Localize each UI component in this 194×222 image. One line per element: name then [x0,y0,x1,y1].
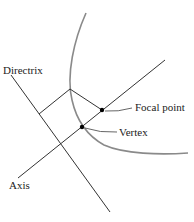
parabola-diagram: Directrix Focal point Vertex Axis [0,0,194,222]
focal-point-leader [105,108,132,111]
vertex-label: Vertex [119,127,148,138]
focal-point-dot [100,108,104,112]
vertex-dot [80,125,84,129]
axis-line [18,60,165,178]
axis-label: Axis [9,180,30,191]
directrix-label: Directrix [3,65,43,76]
perpendicular-to-directrix [39,89,70,114]
focal-point-label: Focal point [135,102,185,113]
vertex-leader [85,128,117,132]
segment-to-focus [70,89,102,110]
